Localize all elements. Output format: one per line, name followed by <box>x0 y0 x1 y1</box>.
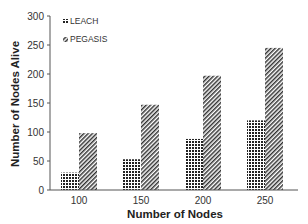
x-tick-label: 200 <box>195 195 212 206</box>
bar-chart: 050100150200250300100150200250 LEACHPEGA… <box>0 0 308 224</box>
y-tick-label: 250 <box>27 40 44 51</box>
bar-pegasis-150 <box>141 105 159 190</box>
y-tick-label: 100 <box>27 127 44 138</box>
legend-label: PEGASIS <box>70 34 108 44</box>
y-tick-label: 300 <box>27 11 44 22</box>
checker-pattern-icon <box>63 19 68 24</box>
legend-label: LEACH <box>70 16 98 26</box>
hatch-pattern-icon <box>63 37 68 42</box>
legend: LEACHPEGASIS <box>63 16 108 44</box>
bar-pegasis-100 <box>79 133 97 190</box>
y-tick-label: 50 <box>33 156 45 167</box>
plot-area <box>61 48 283 190</box>
x-tick-label: 100 <box>71 195 88 206</box>
bar-leach-250 <box>247 120 265 190</box>
bar-leach-100 <box>61 173 79 190</box>
x-tick-label: 150 <box>133 195 150 206</box>
bar-pegasis-200 <box>203 76 221 190</box>
bar-pegasis-250 <box>265 48 283 190</box>
bar-leach-150 <box>123 159 141 190</box>
y-axis-title: Number of Nodes Alive <box>9 41 21 167</box>
y-tick-label: 150 <box>27 98 44 109</box>
x-axis-title: Number of Nodes <box>127 208 223 220</box>
y-tick-label: 0 <box>38 185 44 196</box>
y-tick-label: 200 <box>27 69 44 80</box>
x-tick-label: 250 <box>257 195 274 206</box>
bar-leach-200 <box>185 139 203 190</box>
